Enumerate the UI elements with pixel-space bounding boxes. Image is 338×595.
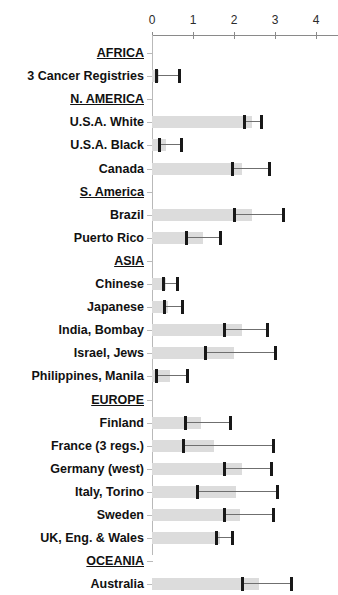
chart-row: Chinese [0,272,338,296]
value-bar [152,347,234,359]
point-estimate-mark [155,369,158,383]
confidence-interval-line [234,214,283,215]
chart-row: Sweden [0,503,338,527]
chart-row: Japanese [0,295,338,319]
chart-row: UK, Eng. & Wales [0,526,338,550]
confidence-interval-line [156,375,187,376]
point-estimate-mark [204,346,207,360]
point-estimate-mark [223,323,226,337]
row-label: U.S.A. White [0,110,144,134]
region-heading-row: S. America [0,180,338,204]
x-axis-tick [234,32,235,39]
upper-limit-mark [229,416,232,430]
confidence-interval-line [224,514,273,515]
confidence-interval-line [197,491,277,492]
upper-limit-mark [176,277,179,291]
chart-row: India, Bombay [0,318,338,342]
row-label: Chinese [0,272,144,296]
confidence-interval-line [242,583,291,584]
confidence-interval-line [156,75,179,76]
region-heading-label: OCEANIA [0,549,144,573]
value-bar [152,509,240,521]
chart-row: Philippines, Manila [0,364,338,388]
confidence-interval-line [186,237,220,238]
row-label: France (3 regs.) [0,434,144,458]
region-heading-row: EUROPE [0,388,338,412]
region-heading-label: S. America [0,180,144,204]
upper-limit-mark [268,162,271,176]
row-label: 3 Cancer Registries [0,64,144,88]
x-axis-tick [275,32,276,39]
chart-row: 3 Cancer Registries [0,64,338,88]
upper-limit-mark [186,369,189,383]
chart-row: France (3 regs.) [0,434,338,458]
region-heading-label: ASIA [0,249,144,273]
confidence-interval-line [183,445,273,446]
confidence-interval-line [159,144,181,145]
row-label: Canada [0,157,144,181]
clipped-title-text [150,0,338,10]
row-label: Japanese [0,295,144,319]
row-label: Sweden [0,503,144,527]
region-heading-label: N. AMERICA [0,87,144,111]
value-bar [152,417,201,429]
row-label: Israel, Jews [0,341,144,365]
upper-limit-mark [274,346,277,360]
row-label: U.S.A. Black [0,133,144,157]
point-estimate-mark [223,462,226,476]
region-heading-row: OCEANIA [0,549,338,573]
point-estimate-mark [223,508,226,522]
point-estimate-mark [162,277,165,291]
x-axis-line [152,35,338,36]
region-heading-label: EUROPE [0,388,144,412]
chart-row: Canada [0,157,338,181]
confidence-interval-line [164,306,181,307]
value-bar [152,532,220,544]
point-estimate-mark [184,416,187,430]
x-axis-tick-label: 4 [306,13,326,27]
chart-row: U.S.A. Black [0,133,338,157]
point-estimate-mark [233,208,236,222]
upper-limit-mark [178,69,181,83]
row-label: Brazil [0,203,144,227]
value-bar [152,116,252,128]
confidence-interval-line [205,352,275,353]
confidence-interval-line [232,168,269,169]
chart-row: U.S.A. White [0,110,338,134]
upper-limit-mark [260,115,263,129]
region-heading-row: ASIA [0,249,338,273]
upper-limit-mark [290,577,293,591]
upper-limit-mark [282,208,285,222]
x-axis-tick-label: 2 [224,13,244,27]
upper-limit-mark [231,531,234,545]
value-bar [152,463,242,475]
upper-limit-mark [272,508,275,522]
row-label: Puerto Rico [0,226,144,250]
point-estimate-mark [155,69,158,83]
row-label: Australia [0,572,144,595]
upper-limit-mark [219,231,222,245]
x-axis-tick-label: 3 [265,13,285,27]
chart-row: Italy, Torino [0,480,338,504]
upper-limit-mark [272,439,275,453]
point-estimate-mark [241,577,244,591]
point-estimate-mark [196,485,199,499]
row-label: Germany (west) [0,457,144,481]
chart-row: Australia [0,572,338,595]
confidence-interval-line [224,329,267,330]
point-estimate-mark [185,231,188,245]
upper-limit-mark [180,138,183,152]
value-bar [152,324,242,336]
row-label: India, Bombay [0,318,144,342]
row-label: UK, Eng. & Wales [0,526,144,550]
upper-limit-mark [266,323,269,337]
region-heading-row: AFRICA [0,41,338,65]
confidence-interval-line [216,537,232,538]
upper-limit-mark [276,485,279,499]
confidence-interval-line [244,121,260,122]
x-axis-tick [316,32,317,39]
chart-row: Brazil [0,203,338,227]
value-bar [152,163,242,175]
row-label: Philippines, Manila [0,364,144,388]
